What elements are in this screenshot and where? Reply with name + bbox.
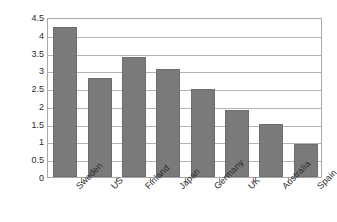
y-tick-label: 1.5	[22, 120, 44, 130]
y-tick-label: 4.5	[22, 13, 44, 23]
x-label-japan: Japan	[177, 184, 184, 191]
y-tick-label: 3.5	[22, 49, 44, 59]
y-tick-label: 0	[22, 173, 44, 183]
bar-sweden[interactable]	[53, 27, 77, 177]
y-tick-label: 2	[22, 102, 44, 112]
y-tick-label: 3	[22, 66, 44, 76]
y-tick-label: 4	[22, 31, 44, 41]
bar-japan[interactable]	[156, 69, 180, 177]
x-label-spain: Spain	[315, 184, 322, 191]
bar-germany[interactable]	[191, 89, 215, 177]
x-label-finland: Finland	[143, 184, 150, 191]
x-label-uk: UK	[246, 184, 253, 191]
x-label-sweden: Sweden	[74, 184, 81, 191]
x-axis-category-labels: SwedenUSFinlandJapanGermanyUKAustraliaSp…	[47, 184, 332, 222]
plot-area	[47, 18, 322, 178]
bar-australia[interactable]	[259, 124, 283, 177]
x-label-germany: Germany	[212, 184, 219, 191]
bars-layer	[48, 19, 321, 177]
bar-finland[interactable]	[122, 57, 146, 177]
y-axis-tick-labels: 00.511.522.533.544.5	[22, 18, 44, 178]
bar-chart-figure: Percentage 00.511.522.533.544.5 SwedenUS…	[0, 0, 337, 222]
x-label-australia: Australia	[280, 184, 287, 191]
y-tick-label: 2.5	[22, 84, 44, 94]
y-tick-label: 1	[22, 137, 44, 147]
x-label-us: US	[109, 184, 116, 191]
y-tick-label: 0.5	[22, 155, 44, 165]
